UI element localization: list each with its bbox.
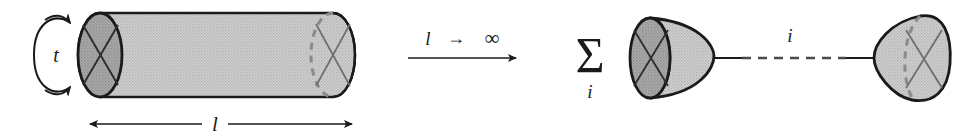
boundary-state-cap-right [874, 16, 950, 101]
length-dimension-arrow: l [90, 112, 352, 136]
boundary-state-cap-left [630, 18, 714, 98]
limit-label-infinity: ∞ [485, 26, 500, 50]
dashed-propagator-line: i [714, 25, 874, 58]
sum-over-states-group: Σ i [575, 27, 604, 102]
time-loop-arc-left [34, 19, 70, 92]
propagator-index-label: i [787, 25, 792, 46]
cylinder-worldsheet-group: t l [34, 13, 355, 136]
sum-sigma-symbol: Σ [575, 27, 604, 83]
limit-transition-group: l → ∞ [408, 26, 516, 58]
limit-label-l: l [425, 28, 430, 49]
length-label: l [212, 112, 218, 136]
figure-root: t l l → ∞ Σ i [0, 0, 965, 138]
time-label: t [53, 44, 59, 66]
closed-string-time-loop: t [34, 16, 70, 95]
physics-diagram-svg: t l l → ∞ Σ i [0, 0, 965, 138]
limit-arrow-operator-icon: → [447, 28, 465, 48]
sum-index-label: i [587, 81, 592, 102]
